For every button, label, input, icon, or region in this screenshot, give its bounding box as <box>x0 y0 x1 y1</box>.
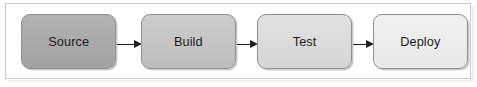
pipeline-node-deploy-label: Deploy <box>400 35 440 49</box>
arrow-line <box>353 44 367 46</box>
arrow-test-to-deploy <box>353 40 374 49</box>
pipeline-node-test[interactable]: Test <box>257 14 352 69</box>
pipeline-node-test-label: Test <box>293 35 317 49</box>
frame-shadow-right <box>472 6 474 82</box>
pipeline-node-build[interactable]: Build <box>141 14 236 69</box>
arrow-line <box>237 44 251 46</box>
pipeline-stage-row: Source Build Test Deploy <box>5 3 471 79</box>
pipeline-node-source[interactable]: Source <box>21 14 116 69</box>
diagram-canvas: Source Build Test Deploy <box>0 0 477 87</box>
pipeline-node-source-label: Source <box>48 35 89 49</box>
frame-shadow-bottom <box>8 80 474 82</box>
arrow-build-to-test <box>237 40 258 49</box>
pipeline-node-build-label: Build <box>174 35 203 49</box>
arrow-source-to-build <box>117 40 142 49</box>
pipeline-node-deploy[interactable]: Deploy <box>373 14 468 69</box>
arrow-line <box>117 44 135 46</box>
